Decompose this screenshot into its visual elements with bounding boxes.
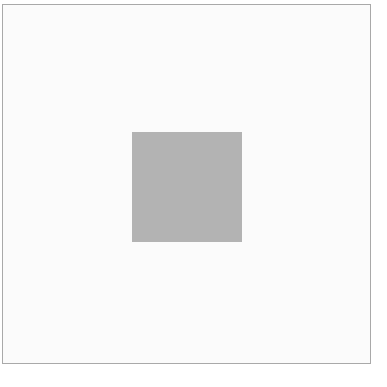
gray-square — [132, 132, 242, 242]
